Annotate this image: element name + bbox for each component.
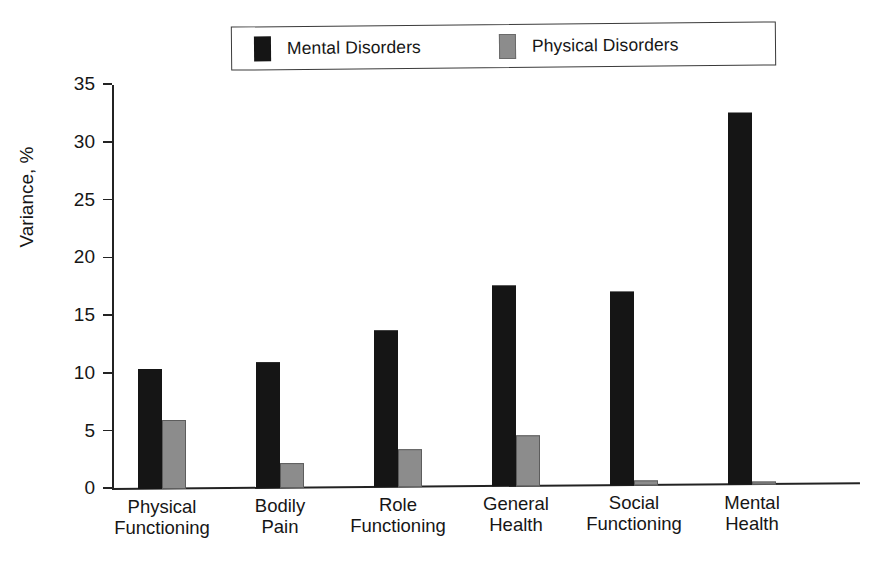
legend-entry-mental-disorders: Mental Disorders	[254, 26, 421, 70]
y-axis-label: Variance, %	[16, 146, 38, 247]
bar-physical-disorders	[398, 449, 422, 487]
y-axis-tick: 5	[103, 430, 112, 432]
y-axis-tick: 0	[103, 487, 112, 489]
y-axis-line	[112, 85, 114, 489]
bar-physical-disorders	[752, 481, 776, 484]
y-axis-tick-label: 35	[74, 73, 95, 95]
bar-mental-disorders	[138, 369, 162, 489]
bar-physical-disorders	[280, 463, 304, 488]
plot-area: 05101520253035 PhysicalFunctioningBodily…	[112, 85, 860, 489]
y-axis-tick: 25	[103, 199, 112, 201]
y-axis-tick-label: 0	[84, 477, 95, 499]
bar-chart: Mental Disorders Physical Disorders Vari…	[0, 0, 875, 572]
bar-mental-disorders	[374, 330, 398, 487]
bar-physical-disorders	[162, 420, 186, 489]
x-axis-category-label-line: Health	[677, 513, 827, 534]
chart-legend: Mental Disorders Physical Disorders	[231, 21, 776, 70]
y-axis-tick-label: 20	[74, 246, 95, 268]
y-axis-tick: 30	[103, 141, 112, 143]
y-axis-tick: 15	[103, 314, 112, 316]
legend-label-mental-disorders: Mental Disorders	[287, 36, 421, 58]
bar-mental-disorders	[256, 362, 280, 488]
bar-physical-disorders	[634, 481, 658, 486]
bar-mental-disorders	[728, 113, 752, 485]
y-axis-tick-label: 15	[74, 304, 95, 326]
y-axis-tick-label: 5	[84, 419, 95, 441]
bar-physical-disorders	[516, 436, 540, 487]
bar-mental-disorders	[492, 285, 516, 486]
y-axis-tick-label: 10	[74, 361, 95, 383]
y-axis-tick-label: 25	[74, 188, 95, 210]
legend-swatch-black-icon	[254, 36, 271, 61]
y-axis-tick: 20	[103, 257, 112, 259]
y-axis-tick: 10	[103, 372, 112, 374]
y-axis-tick-label: 30	[74, 130, 95, 152]
legend-entry-physical-disorders: Physical Disorders	[499, 23, 679, 67]
x-axis-category-label-line: Mental	[677, 493, 827, 514]
x-axis-category-label: MentalHealth	[677, 493, 827, 534]
y-axis-tick: 35	[103, 83, 112, 85]
bar-mental-disorders	[610, 291, 634, 485]
legend-swatch-gray-icon	[499, 33, 516, 58]
legend-label-physical-disorders: Physical Disorders	[532, 34, 679, 56]
